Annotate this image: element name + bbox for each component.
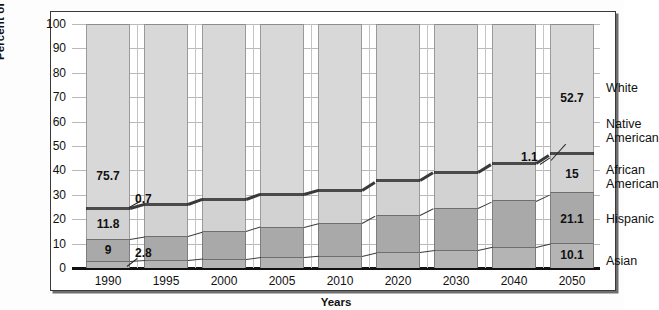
segment-asian [434,250,478,268]
y-tick-30: 30 [36,189,66,201]
segment-asian [318,256,362,268]
segment-african-american [318,192,362,224]
y-tick-70: 70 [36,91,66,103]
bar-2000 [202,24,246,268]
segment-native-american [86,207,130,210]
segment-white [434,24,478,171]
x-tick-2020: 2020 [385,274,412,288]
segment-white [492,24,536,162]
segment-asian [86,261,130,268]
y-tick-60: 60 [36,116,66,128]
callout-2040-native-american: 1.1 [521,150,538,164]
bar-2005 [260,24,304,268]
segment-white [144,24,188,203]
segment-african-american [202,201,246,231]
vgrid-3 [253,24,254,268]
y-tick-20: 20 [36,213,66,225]
vgrid-2 [195,24,196,268]
segment-asian [492,247,536,268]
bar-2050 [550,24,594,268]
legend-item-hispanic: Hispanic [606,213,654,227]
segment-white [318,24,362,189]
vgrid-1 [137,24,138,268]
vgrid-8 [543,24,544,268]
segment-hispanic [202,231,246,258]
segment-white [202,24,246,198]
x-tick-2010: 2010 [327,274,354,288]
segment-hispanic [492,200,536,247]
x-axis-title: Years [72,296,600,308]
label-1990-white: 75.7 [96,169,119,183]
segment-native-american [434,171,478,174]
segment-hispanic [376,215,420,252]
plot-area: 100 90 80 70 60 50 40 30 20 10 0 [72,24,600,268]
legend-label-african-line2: American [606,177,659,191]
y-tick-100: 100 [36,18,66,30]
segment-hispanic [260,227,304,257]
bar-2020 [376,24,420,268]
bar-1995 [144,24,188,268]
label-2050-white: 52.7 [560,91,583,105]
y-tick-40: 40 [36,164,66,176]
label-2050-asian: 10.1 [560,248,583,262]
vgrid-7 [485,24,486,268]
legend-label-african-line1: African [606,163,645,177]
label-1990-african-american: 11.8 [97,217,120,231]
vgrid-6 [427,24,428,268]
bar-2030 [434,24,478,268]
label-2050-hispanic: 21.1 [560,212,583,226]
segment-white [376,24,420,179]
legend-item-african-american: African American [606,164,659,191]
segment-african-american [434,174,478,208]
segment-white [260,24,304,193]
x-tick-2040: 2040 [501,274,528,288]
y-tick-0: 0 [36,262,66,274]
segment-asian [260,257,304,268]
y-axis-title: Percent of Total Population [0,0,6,60]
segment-african-american [376,182,420,215]
x-tick-1995: 1995 [153,274,180,288]
segment-white [550,24,594,152]
segment-asian [376,252,420,268]
vgrid-5 [369,24,370,268]
x-tick-2050: 2050 [559,274,586,288]
segment-african-american [144,206,188,236]
segment-african-american [260,196,304,227]
legend-label-hispanic: Hispanic [606,212,654,226]
legend-label-native-line2: American [606,131,659,145]
bar-2040 [492,24,536,268]
y-tick-80: 80 [36,67,66,79]
legend-label-asian: Asian [606,254,637,268]
segment-native-american [202,198,246,201]
segment-hispanic [434,208,478,251]
bar-2010 [318,24,362,268]
legend-item-asian: Asian [606,255,637,269]
segment-asian [144,260,188,268]
legend-label-native-line1: Native [606,117,641,131]
x-tick-2000: 2000 [211,274,238,288]
segment-asian [202,259,246,268]
segment-native-american [260,193,304,196]
bar-1990 [86,24,130,268]
label-1990-hispanic: 9 [105,243,112,257]
segment-native-american [376,179,420,182]
x-tick-2005: 2005 [269,274,296,288]
y-tick-50: 50 [36,140,66,152]
label-2050-african-american: 15 [565,167,578,181]
segment-hispanic [318,223,362,256]
segment-african-american [492,165,536,200]
y-tick-10: 10 [36,238,66,250]
legend-item-native-american: Native American [606,118,659,145]
x-tick-1990: 1990 [95,274,122,288]
callout-1990-native-american: 0.7 [135,192,152,206]
segment-native-american [318,189,362,192]
y-tick-90: 90 [36,42,66,54]
vgrid-4 [311,24,312,268]
legend-label-white: White [606,81,638,95]
legend-item-white: White [606,82,638,96]
x-tick-2030: 2030 [443,274,470,288]
